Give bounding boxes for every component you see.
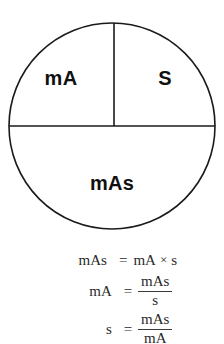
formula-s-numerator: mAs	[139, 312, 171, 329]
formula-s: s = mAs mA	[0, 310, 224, 344]
quadrant-label-ma: mA	[8, 68, 114, 88]
formula-mas-lhs: mAs	[47, 252, 113, 269]
formula-list: mAs = mA × s mA = mAs s s = mAs mA	[0, 248, 224, 344]
formula-mas-operand-right: s	[171, 252, 177, 269]
formula-s-fraction: mAs mA	[138, 312, 172, 344]
formula-mas-equals: =	[113, 252, 133, 269]
formula-ma-equals: =	[118, 283, 138, 300]
mas-triangle-circle-diagram: mA S mAs	[8, 14, 216, 238]
multiplication-sign-icon: ×	[156, 252, 171, 268]
formula-mas: mAs = mA × s	[0, 248, 224, 272]
formula-ma-denominator: s	[150, 292, 160, 309]
formula-s-equals: =	[118, 321, 138, 338]
formula-ma: mA = mAs s	[0, 272, 224, 310]
formula-mas-operand-left: mA	[133, 252, 156, 269]
quadrant-label-s: S	[114, 68, 216, 88]
circle-diagram-graphic	[8, 14, 216, 238]
formula-s-denominator: mA	[142, 330, 169, 344]
formula-ma-numerator: mAs	[139, 274, 171, 291]
formula-ma-lhs: mA	[52, 283, 118, 300]
formula-ma-fraction: mAs s	[138, 274, 172, 309]
mnemonic-circle-figure: mA S mAs mAs = mA × s mA = mAs s s =	[0, 0, 224, 344]
half-label-mas: mAs	[8, 173, 216, 193]
formula-s-lhs: s	[52, 321, 118, 338]
